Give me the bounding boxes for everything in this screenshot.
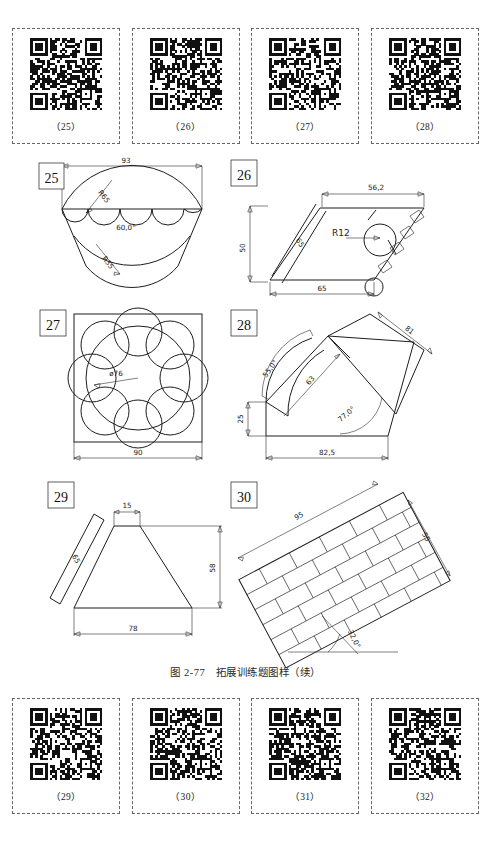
- qr-row-top: （25）（26）（27）（28）: [0, 28, 491, 148]
- dim-label-58: 58: [208, 563, 217, 573]
- dim-25: [246, 402, 266, 436]
- qr-label: （32）: [410, 789, 441, 803]
- figure-29: 29 15 65: [34, 476, 239, 656]
- dim-label-825: 82,5: [319, 448, 335, 457]
- dim-label-78: 78: [128, 624, 138, 633]
- dim-label-65: 65: [70, 553, 82, 565]
- figure-28-number: 28: [231, 310, 257, 336]
- figure-number-label: 30: [237, 490, 251, 505]
- dim-95: [238, 481, 378, 561]
- qr-row-bottom: （29）（30）（31）（32）: [0, 698, 491, 818]
- qr-label: （31）: [290, 789, 321, 803]
- qr-code-icon[interactable]: [150, 38, 222, 110]
- figure-26-number: 26: [231, 160, 257, 186]
- dim-81: [378, 312, 432, 354]
- figure-number-label: 26: [237, 168, 251, 183]
- dim-label-d76: ø76: [109, 369, 123, 378]
- dim-label-90: 90: [133, 448, 143, 457]
- figure-number-label: 29: [54, 490, 68, 505]
- figure-25: 93 R65 60,0° R35: [34, 154, 234, 304]
- qr-cell[interactable]: （25）: [12, 28, 120, 144]
- figure-number-label: 28: [237, 318, 251, 333]
- dim-label-81: 81: [403, 324, 416, 337]
- dim-50: [248, 206, 268, 282]
- figure-28: 28 55,0°: [228, 306, 462, 471]
- dim-label-93: 93: [121, 156, 130, 165]
- qr-cell[interactable]: （28）: [371, 28, 479, 144]
- figure-number-label: 27: [46, 318, 60, 333]
- qr-cell[interactable]: （30）: [132, 698, 240, 814]
- qr-code-icon[interactable]: [30, 708, 102, 780]
- qr-code-icon[interactable]: [269, 708, 341, 780]
- qr-label: （28）: [410, 119, 441, 133]
- dim-label-r35: R35: [100, 254, 116, 271]
- dim-label-15: 15: [122, 501, 131, 510]
- figure-caption: 图 2-77 拓展训练题图样（续）: [0, 664, 491, 679]
- qr-label: （29）: [51, 789, 82, 803]
- qr-code-icon[interactable]: [389, 708, 461, 780]
- dim-label-60deg: 60,0°: [116, 223, 136, 232]
- figure-grid: 93 R65 60,0° R35: [0, 152, 491, 657]
- qr-code-icon[interactable]: [150, 708, 222, 780]
- figure-27-number: 27: [40, 310, 66, 336]
- dim-label-32deg: 32,0°: [346, 628, 363, 650]
- qr-cell[interactable]: （32）: [371, 698, 479, 814]
- dim-label-r65: R65: [96, 188, 112, 205]
- dim-63-leader: [284, 354, 340, 416]
- figure-26: 26: [228, 154, 460, 304]
- qr-cell[interactable]: （27）: [251, 28, 359, 144]
- dim-label-63: 63: [304, 374, 317, 387]
- figure-27: 27 ø76: [34, 306, 234, 471]
- figure-25-number: 25: [39, 163, 64, 189]
- figure-30: 30: [228, 476, 468, 661]
- qr-cell[interactable]: （26）: [132, 28, 240, 144]
- dim-label-65-bottom: 65: [317, 284, 326, 293]
- dim-label-562: 56,2: [368, 183, 384, 192]
- qr-label: （25）: [51, 119, 82, 133]
- dim-r12-leader: [346, 236, 380, 240]
- dim-93: [62, 164, 202, 209]
- qr-label: （27）: [290, 119, 321, 133]
- qr-cell[interactable]: （31）: [251, 698, 359, 814]
- dim-label-77deg: 77,0°: [336, 404, 357, 423]
- qr-code-icon[interactable]: [30, 38, 102, 110]
- qr-code-icon[interactable]: [269, 38, 341, 110]
- dim-label-25: 25: [236, 414, 245, 423]
- figure-26-outline: [270, 204, 424, 296]
- dim-15: [114, 510, 140, 526]
- dim-562: [322, 192, 424, 207]
- qr-cell[interactable]: （29）: [12, 698, 120, 814]
- figure-29-outline: [50, 514, 192, 608]
- qr-code-icon[interactable]: [389, 38, 461, 110]
- figure-29-number: 29: [48, 482, 74, 508]
- dim-label-55deg: 55,0°: [261, 358, 280, 379]
- figure-30-number: 30: [231, 482, 257, 508]
- dim-label-95: 95: [293, 510, 305, 522]
- qr-label: （26）: [170, 119, 201, 133]
- dim-label-50: 50: [238, 243, 247, 253]
- figure-number-label: 25: [45, 171, 59, 186]
- qr-label: （30）: [170, 789, 201, 803]
- dim-label-r12: R12: [332, 228, 350, 238]
